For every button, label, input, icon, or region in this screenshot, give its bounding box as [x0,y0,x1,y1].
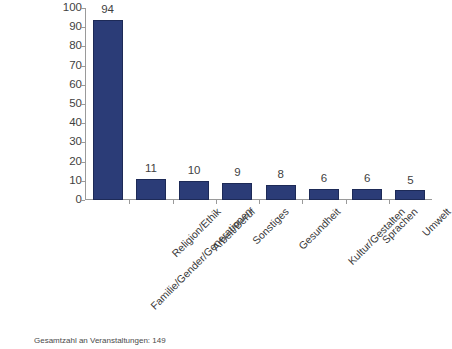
x-axis-tick-mark [389,200,390,204]
x-axis-tick-mark [216,200,217,204]
y-axis-tick-mark [81,162,85,163]
bar[interactable] [222,183,252,200]
x-axis-tick-mark [302,200,303,204]
bar[interactable] [136,179,166,200]
y-axis-tick-mark [81,66,85,67]
bar-series: 94 11 10 9 8 6 [86,8,432,200]
y-axis-tick-mark [81,200,85,201]
bar-slot: 8 [259,8,302,200]
x-axis-tick-mark [173,200,174,204]
bar-value-label: 10 [188,165,201,177]
y-axis-tick-mark [81,181,85,182]
y-axis-tick-mark [81,85,85,86]
bar[interactable] [309,189,339,201]
x-axis-tick-mark [346,200,347,204]
bar-value-label: 94 [101,4,114,16]
bar-slot: 5 [389,8,432,200]
x-tick-label: Kultur/Gestalten [346,206,407,267]
x-axis-category-labels: Familie/Gender/Generationen Religion/Eth… [86,206,432,331]
bar-slot: 94 [86,8,129,200]
bar-value-label: 5 [407,175,413,187]
y-axis-tick-mark [81,27,85,28]
y-axis-tick-mark [81,104,85,105]
bar[interactable] [395,190,425,200]
x-tick-label: Umwelt [421,206,452,238]
bar-slot: 11 [129,8,172,200]
bar[interactable] [266,185,296,200]
bar-slot: 9 [216,8,259,200]
bar-value-label: 11 [145,163,157,175]
bar-value-label: 6 [321,173,327,185]
bar-value-label: 8 [277,169,283,181]
bar-value-label: 6 [364,173,370,185]
x-axis-tick-mark [129,200,130,204]
bar-chart: 100 90 80 70 60 50 40 30 20 10 0 [0,0,452,349]
chart-footnote: Gesamtzahl an Veranstaltungen: 149 [34,337,166,346]
bar-slot: 6 [302,8,345,200]
y-axis-tick-mark [81,142,85,143]
y-axis-tick-labels: 100 90 80 70 60 50 40 30 20 10 0 [52,8,82,200]
bar-value-label: 9 [234,167,240,179]
bar-slot: 10 [173,8,216,200]
y-axis-tick-mark [81,123,85,124]
y-axis-tick-mark [81,46,85,47]
x-tick-label: Sonstiges [251,206,291,246]
bar[interactable] [179,181,209,200]
x-axis-tick-mark [259,200,260,204]
x-tick-label: Gesundheit [296,206,341,251]
y-tick-label: 100 [63,2,82,14]
bar-slot: 6 [346,8,389,200]
bar[interactable] [93,20,123,201]
y-axis-tick-mark [81,8,85,9]
bar[interactable] [352,189,382,201]
plot-area: 100 90 80 70 60 50 40 30 20 10 0 [0,0,452,210]
